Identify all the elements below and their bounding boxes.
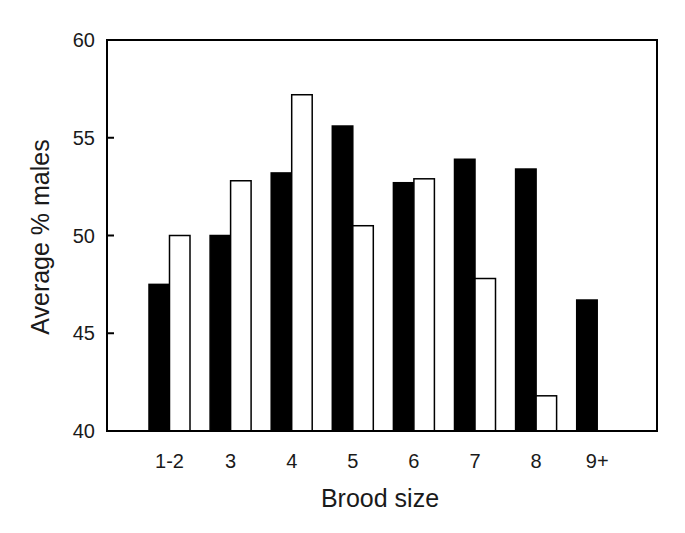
bar-white-6 <box>414 179 435 431</box>
y-tick-label: 55 <box>73 127 95 149</box>
bar-black-4 <box>271 173 292 431</box>
y-tick-label: 50 <box>73 225 95 247</box>
x-tick-label: 6 <box>408 450 419 472</box>
bar-black-8 <box>516 169 537 431</box>
bar-black-1-2 <box>149 284 170 431</box>
bar-white-4 <box>292 95 313 431</box>
x-axis-title: Brood size <box>321 484 439 512</box>
bar-black-5 <box>332 126 353 431</box>
bar-black-6 <box>393 183 414 431</box>
x-tick-label: 8 <box>531 450 542 472</box>
bar-white-7 <box>475 279 496 431</box>
x-tick-label: 5 <box>347 450 358 472</box>
bar-chart: 4045505560 1-23456789+ Brood size Averag… <box>0 0 685 533</box>
bar-white-8 <box>536 396 557 431</box>
y-tick-label: 45 <box>73 322 95 344</box>
bar-white-5 <box>353 226 374 431</box>
x-tick-label: 9+ <box>586 450 609 472</box>
y-tick-label: 60 <box>73 29 95 51</box>
y-tick-label: 40 <box>73 420 95 442</box>
y-axis-title: Average % males <box>26 139 54 334</box>
bars-layer <box>149 95 597 431</box>
bar-black-7 <box>455 159 476 431</box>
x-tick-label: 7 <box>469 450 480 472</box>
x-axis: 1-23456789+ <box>155 450 609 472</box>
bar-black-3 <box>210 236 231 432</box>
bar-black-9+ <box>577 300 598 431</box>
x-tick-label: 4 <box>286 450 297 472</box>
bar-white-1-2 <box>170 236 191 432</box>
x-tick-label: 1-2 <box>155 450 184 472</box>
bar-white-3 <box>231 181 252 431</box>
x-tick-label: 3 <box>225 450 236 472</box>
